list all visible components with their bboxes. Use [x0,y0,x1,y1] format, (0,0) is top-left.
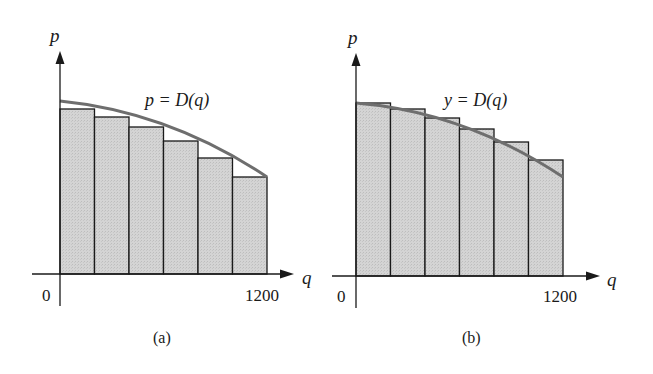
rectangle-a-2 [95,117,130,274]
curve-label-a: p = D(q) [143,90,209,111]
x-axis-arrow-a [280,270,294,279]
curve-label-b: y = D(q) [442,90,507,111]
rectangle-a-3 [129,127,164,274]
y-axis-arrow-a [56,51,65,64]
rectangle-b-3 [425,118,460,276]
caption-a: (a) [153,329,171,347]
riemann-rectangles-b [356,103,563,276]
caption-b: (b) [462,329,481,347]
rectangle-a-5 [198,158,233,274]
panel-a: p q p = D(q) 0 1200 (a) [32,25,312,347]
rectangle-b-6 [529,160,564,276]
x-axis-label-a: q [302,267,312,288]
rectangle-b-2 [391,109,426,276]
rectangle-b-1 [356,103,391,276]
y-axis-label-a: p [48,25,60,46]
panel-b: p q y = D(q) 0 1200 (b) [332,27,617,347]
x-axis-label-b: q [607,269,617,290]
x-tick-1200-a: 1200 [245,286,279,305]
figure-canvas: p q p = D(q) 0 1200 (a) p q y = D(q) 0 1… [0,0,653,374]
rectangle-a-6 [233,177,268,274]
x-axis-arrow-b [586,272,600,281]
x-tick-zero-a: 0 [42,286,51,305]
x-tick-1200-b: 1200 [543,287,577,306]
y-axis-arrow-b [352,53,361,66]
rectangle-a-1 [60,109,95,274]
y-axis-label-b: p [346,27,358,48]
rectangle-b-4 [460,129,495,276]
rectangle-a-4 [164,141,199,274]
riemann-rectangles-a [60,109,267,274]
rectangle-b-5 [494,142,529,276]
x-tick-zero-b: 0 [337,287,346,306]
